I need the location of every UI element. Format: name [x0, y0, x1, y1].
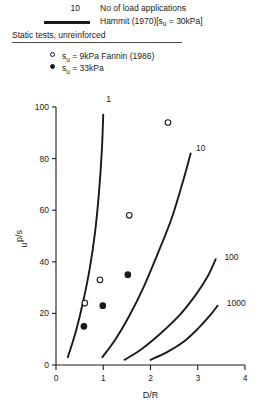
legend-load-count-label: No of load applications	[100, 3, 186, 13]
x-axis-tick-label: 1	[101, 373, 106, 383]
x-axis-tick-label: 3	[195, 373, 200, 383]
y-axis-tick-label: 0	[44, 360, 49, 370]
data-point-open-circle	[82, 300, 88, 306]
curve-100	[125, 259, 216, 360]
chart-data-points	[81, 120, 171, 329]
y-axis-tick-label: 40	[40, 257, 50, 267]
legend-static-heading: Static tests, unreinforced	[12, 30, 106, 40]
y-axis-tick-label: 60	[40, 205, 50, 215]
y-axis-title-subscript: u	[19, 242, 29, 247]
x-axis-tick-label: 4	[243, 373, 248, 383]
x-axis-tick-label: 2	[148, 373, 153, 383]
legend-line-swatch	[44, 21, 90, 24]
chart-plot-area: 02040608010001234 D/Rp/su1101001000	[0, 72, 270, 408]
legend-hammit-text: Hammit (1970)[s	[100, 16, 163, 26]
data-point-open-circle	[126, 213, 132, 219]
legend-hammit-subscript: u	[163, 20, 167, 27]
y-axis-tick-label: 20	[40, 308, 50, 318]
open-circle-marker-icon	[50, 52, 55, 57]
chart-labels: D/Rp/su1101001000	[14, 94, 246, 400]
legend-hammit-label: Hammit (1970)[su = 30kPa]	[100, 16, 203, 27]
y-axis-tick-label: 80	[40, 154, 50, 164]
data-point-filled-circle	[100, 303, 106, 309]
curve-label-1: 1	[106, 94, 111, 104]
y-axis-title: p/s	[14, 230, 24, 243]
y-axis-tick-label: 100	[35, 102, 49, 112]
curve-label-100: 100	[224, 252, 238, 262]
data-point-filled-circle	[81, 324, 87, 330]
curve-label-10: 10	[196, 143, 206, 153]
legend-hammit-tail: = 30kPa]	[166, 16, 202, 26]
curve-label-1000: 1000	[227, 298, 246, 308]
filled-circle-marker-icon	[50, 64, 55, 69]
legend-divider	[12, 42, 182, 43]
x-axis-tick-label: 0	[54, 373, 59, 383]
data-point-filled-circle	[125, 272, 131, 278]
chart-legend: 10 No of load applications Hammit (1970)…	[0, 0, 270, 72]
chart-axes: 02040608010001234	[35, 102, 248, 383]
data-point-open-circle	[165, 120, 171, 126]
legend-load-count-value: 10	[56, 3, 80, 13]
x-axis-title: D/R	[143, 390, 159, 400]
curve-1	[68, 115, 103, 358]
curve-10	[102, 153, 190, 357]
data-point-open-circle	[97, 277, 103, 283]
chart-svg: 02040608010001234 D/Rp/su1101001000	[0, 72, 270, 408]
